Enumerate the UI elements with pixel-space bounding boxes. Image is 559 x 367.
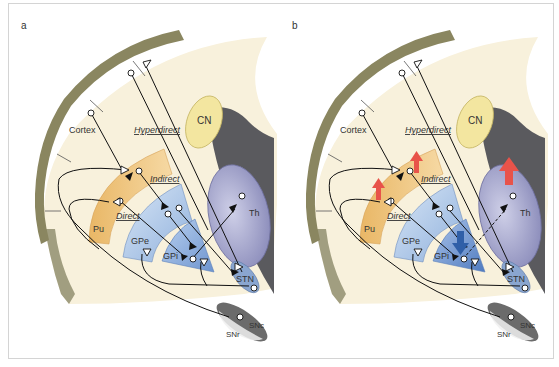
label-pu: Pu bbox=[93, 224, 104, 234]
label-stn: STN bbox=[507, 274, 525, 284]
label-cn: CN bbox=[468, 115, 482, 126]
panel-a: a bbox=[9, 4, 282, 360]
label-gpe: GPe bbox=[131, 236, 149, 246]
basal-ganglia-figure: a bbox=[8, 3, 554, 359]
label-snr: SNr bbox=[226, 330, 240, 339]
circuit-diagram: Cortex Hyperdirect Indirect Direct CN Pu… bbox=[9, 4, 282, 360]
label-snr: SNr bbox=[497, 330, 511, 339]
label-hyperdirect: Hyperdirect bbox=[405, 125, 452, 135]
label-indirect: Indirect bbox=[421, 174, 451, 184]
label-snc: SNc bbox=[249, 321, 264, 330]
label-pu: Pu bbox=[364, 224, 375, 234]
label-gpe: GPe bbox=[402, 236, 420, 246]
label-snc: SNc bbox=[520, 321, 535, 330]
label-direct: Direct bbox=[116, 211, 140, 221]
panel-b: b bbox=[280, 4, 553, 360]
label-th: Th bbox=[249, 208, 260, 218]
label-direct: Direct bbox=[387, 211, 411, 221]
label-stn: STN bbox=[236, 274, 254, 284]
circuit-diagram-pathological: Cortex Hyperdirect Indirect Direct CN Pu… bbox=[280, 4, 553, 360]
label-indirect: Indirect bbox=[150, 174, 180, 184]
label-gpi: GPi bbox=[434, 251, 449, 261]
label-th: Th bbox=[520, 208, 531, 218]
label-cortex: Cortex bbox=[69, 125, 96, 135]
label-cn: CN bbox=[197, 115, 211, 126]
label-cortex: Cortex bbox=[340, 125, 367, 135]
label-gpi: GPi bbox=[163, 251, 178, 261]
label-hyperdirect: Hyperdirect bbox=[134, 125, 181, 135]
